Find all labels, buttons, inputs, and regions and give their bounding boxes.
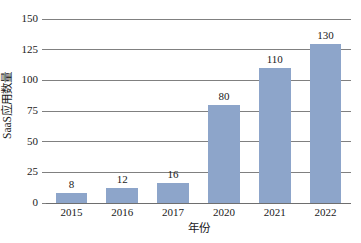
x-tick-label: 2022 bbox=[315, 205, 337, 219]
y-tick-label: 0 bbox=[0, 197, 38, 208]
y-tick-label: 75 bbox=[0, 105, 38, 116]
bar-value-label: 12 bbox=[117, 174, 128, 185]
x-tick-label: 2021 bbox=[264, 205, 286, 219]
plot-area: 8121680110130 bbox=[46, 19, 351, 203]
bar: 12 bbox=[106, 188, 138, 203]
y-tick-label: 150 bbox=[0, 13, 38, 24]
x-tick-label: 2016 bbox=[111, 205, 133, 219]
bar: 110 bbox=[259, 68, 291, 203]
bar-value-label: 80 bbox=[218, 91, 229, 102]
bar: 80 bbox=[208, 105, 240, 203]
bar-value-label: 110 bbox=[267, 54, 283, 65]
y-tick-label: 25 bbox=[0, 166, 38, 177]
bar: 130 bbox=[310, 44, 342, 203]
y-tick-label: 125 bbox=[0, 44, 38, 55]
bar-value-label: 16 bbox=[168, 169, 179, 180]
x-tick-label: 2017 bbox=[162, 205, 184, 219]
x-axis-title: 年份 bbox=[46, 221, 351, 235]
x-tick-label: 2020 bbox=[213, 205, 235, 219]
bar: 16 bbox=[157, 183, 189, 203]
y-tick-label: 50 bbox=[0, 136, 38, 147]
x-tick-label: 2015 bbox=[60, 205, 82, 219]
y-tick-label: 100 bbox=[0, 74, 38, 85]
x-axis-tick-labels: 201520162017202020212022 bbox=[46, 205, 351, 221]
bar-value-label: 8 bbox=[69, 179, 75, 190]
bar-series: 8121680110130 bbox=[46, 19, 351, 203]
bar-value-label: 130 bbox=[317, 30, 334, 41]
bar: 8 bbox=[56, 193, 88, 203]
bar-chart: SaaS应用数量 0255075100125150 8121680110130 … bbox=[0, 0, 361, 243]
